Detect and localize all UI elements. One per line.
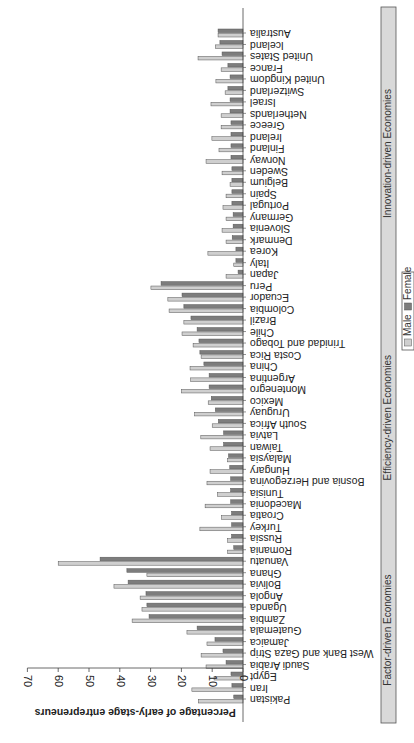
category-label: Argentina — [250, 373, 295, 385]
category-label: Slovenia — [250, 223, 290, 235]
bar-female — [231, 477, 243, 481]
category-label: Brazil — [250, 315, 276, 327]
category-label: Montenegro — [250, 384, 306, 396]
value-tick-label: 50 — [84, 675, 96, 687]
bar-chart: PakistanIranEgyptSaudi ArabiaWest Bank a… — [0, 0, 414, 743]
bar-female — [149, 615, 243, 619]
bar-male — [193, 343, 243, 347]
bar-male — [140, 596, 243, 600]
category-label: France — [250, 63, 283, 75]
bar-female — [230, 98, 243, 102]
category-label: Chile — [250, 327, 274, 339]
bar-male — [228, 550, 243, 554]
group-label: Efficiency-driven Economies — [382, 355, 393, 480]
bar-female — [234, 546, 243, 550]
bar-female — [218, 29, 243, 33]
bar-female — [215, 408, 243, 412]
category-label: Sweden — [250, 166, 288, 178]
bar-male — [132, 619, 243, 623]
value-tick-label: 10 — [207, 675, 219, 687]
value-tick-label: 0 — [238, 675, 250, 681]
category-label: Russia — [250, 533, 282, 545]
category-label: Croatia — [250, 510, 284, 522]
legend-swatch-male — [405, 339, 412, 346]
bar-female — [182, 293, 243, 297]
category-label: Pakistan — [250, 694, 290, 706]
legend-label-male: Male — [402, 314, 413, 336]
category-label: Macedonia — [250, 499, 302, 511]
category-labels: PakistanIranEgyptSaudi ArabiaWest Bank a… — [243, 8, 374, 722]
bar-female — [211, 396, 243, 400]
bar-female — [232, 534, 243, 538]
bar-female — [232, 511, 243, 515]
bar-female — [230, 109, 243, 113]
legend-label-female: Female — [402, 266, 413, 300]
value-axis-title: Percentage of early-stage entrepreneurs — [34, 707, 235, 719]
category-label: Uruguay — [249, 407, 289, 419]
category-label: Trinidad and Tobago — [250, 338, 345, 350]
bar-male — [201, 435, 243, 439]
value-tick-label: 40 — [115, 675, 127, 687]
category-label: Romania — [250, 545, 292, 557]
category-label: Korea — [250, 246, 278, 258]
bar-male — [206, 160, 243, 164]
category-label: Uganda — [250, 602, 287, 614]
bar-male — [187, 631, 243, 635]
value-axis: 010203040506070 — [22, 668, 250, 687]
category-label: Denmark — [249, 235, 292, 247]
bar-female — [233, 224, 243, 228]
bar-male — [218, 33, 243, 37]
bar-male — [198, 699, 243, 703]
category-label: Latvia — [250, 430, 278, 442]
value-tick-label: 30 — [146, 675, 158, 687]
bar-male — [182, 332, 243, 336]
bar-female — [204, 362, 243, 366]
category-label: Tunisia — [250, 488, 284, 500]
bar-male — [228, 458, 243, 462]
bar-female — [233, 213, 243, 217]
category-label: China — [250, 361, 278, 373]
category-label: Spain — [250, 189, 277, 201]
bar-female — [234, 695, 243, 699]
bar-male — [184, 320, 243, 324]
value-tick-label: 60 — [53, 675, 65, 687]
category-label: Belgium — [250, 177, 288, 189]
bar-male — [223, 206, 243, 210]
bar-male — [234, 263, 243, 267]
bar-male — [226, 240, 243, 244]
bar-female — [231, 155, 243, 159]
group-label: Factor-driven Economies — [382, 575, 393, 686]
category-label: Iceland — [250, 40, 284, 52]
category-label: Malaysia — [250, 453, 292, 465]
category-label: Ireland — [250, 132, 282, 144]
bar-male — [210, 470, 243, 474]
bar-female — [127, 569, 243, 573]
category-label: Turkey — [249, 522, 281, 534]
bar-male — [226, 194, 243, 198]
value-tick-label: 20 — [176, 675, 188, 687]
bar-female — [199, 339, 243, 343]
category-label: Japan — [250, 269, 279, 281]
bar-male — [228, 539, 243, 543]
bar-female — [197, 328, 243, 332]
bar-male — [222, 171, 243, 175]
bar-female — [229, 454, 243, 458]
legend: MaleFemale — [402, 266, 414, 350]
bar-male — [226, 275, 243, 279]
axis-title-text: Percentage of early-stage entrepreneurs — [34, 707, 235, 719]
value-tick-label: 70 — [22, 675, 34, 687]
category-label: Taiwan — [250, 442, 283, 454]
legend-group: MaleFemale — [402, 266, 414, 350]
bar-male — [147, 573, 243, 577]
category-label: United States — [250, 51, 313, 63]
bar-female — [231, 132, 243, 136]
bar-male — [210, 447, 243, 451]
category-label: Costa Rica — [250, 350, 302, 362]
category-label: Angola — [250, 591, 283, 603]
bar-female — [224, 442, 243, 446]
category-label: Norway — [249, 155, 285, 167]
category-label: South Africa — [250, 419, 307, 431]
bar-female — [191, 316, 243, 320]
bar-female — [231, 121, 243, 125]
bar-male — [225, 91, 243, 95]
